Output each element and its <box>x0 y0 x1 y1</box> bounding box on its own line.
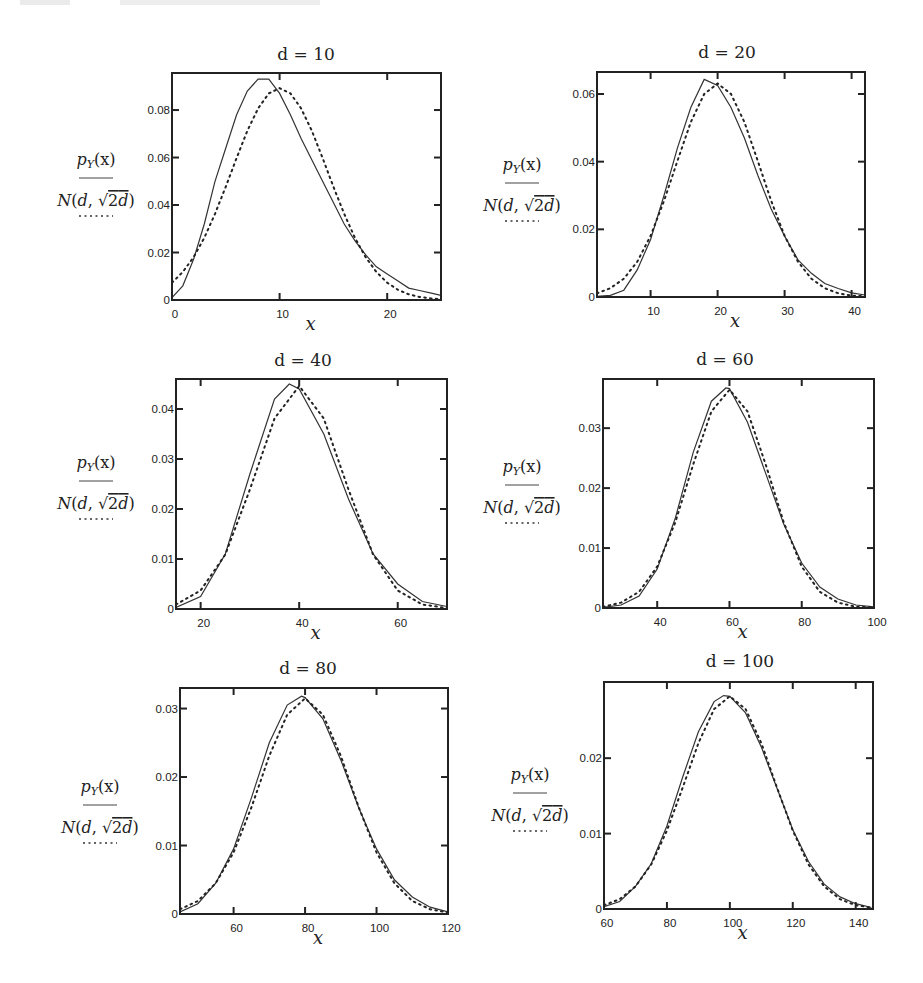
series-normal-dotted-line <box>597 84 865 297</box>
x-tick-label: 10 <box>276 308 289 320</box>
panel-title: d = 20 <box>698 42 756 62</box>
series-py-solid-line <box>597 79 865 296</box>
y-tick-label: 0.02 <box>156 771 178 783</box>
y-tick-label: 0.06 <box>148 152 170 164</box>
x-tick-label: 10 <box>647 305 660 317</box>
panel-title: d = 80 <box>279 658 337 678</box>
series-py-solid-line <box>172 79 441 297</box>
y-tick-label: 0.01 <box>579 542 601 554</box>
legend-dotted-label: N(d, √2d) <box>56 191 135 210</box>
panel-d10: d = 100102000.020.040.060.08xpY(x)N(d, √… <box>56 44 441 334</box>
y-tick-label: 0 <box>589 291 595 303</box>
panel-d60: d = 6040608010000.010.020.03xpY(x)N(d, √… <box>482 349 886 642</box>
y-tick-label: 0 <box>596 903 602 915</box>
legend-dotted-label: N(d, √2d) <box>56 494 135 513</box>
x-tick-label: 140 <box>849 917 868 929</box>
panel-title: d = 10 <box>277 44 335 64</box>
plot-frame <box>603 379 874 608</box>
y-tick-label: 0.08 <box>148 104 170 116</box>
panel-title: d = 100 <box>706 651 774 671</box>
series-normal-dotted-line <box>180 698 448 912</box>
y-tick-label: 0 <box>164 294 170 306</box>
x-tick-label: 30 <box>781 305 794 317</box>
series-normal-dotted-line <box>603 390 874 608</box>
legend-dotted-label: N(d, √2d) <box>490 806 569 825</box>
panel-title: d = 40 <box>274 350 332 370</box>
x-tick-label: 40 <box>296 617 309 629</box>
y-tick-label: 0 <box>172 908 178 920</box>
y-tick-label: 0.02 <box>148 247 170 259</box>
x-tick-label: 40 <box>654 616 667 628</box>
series-normal-dotted-line <box>176 386 447 608</box>
x-tick-label: 80 <box>798 616 811 628</box>
legend-dotted-label: N(d, √2d) <box>482 196 561 215</box>
x-tick-label: 40 <box>848 305 861 317</box>
x-tick-label: 20 <box>197 617 210 629</box>
y-tick-label: 0.02 <box>573 223 595 235</box>
x-tick-label: 60 <box>394 617 407 629</box>
x-tick-label: 80 <box>664 917 677 929</box>
y-tick-label: 0.02 <box>580 752 602 764</box>
x-tick-label: 60 <box>230 922 243 934</box>
y-tick-label: 0 <box>595 602 601 614</box>
x-axis-label: x <box>730 310 740 331</box>
legend-solid-label: pY(x) <box>76 453 115 474</box>
x-tick-label: 60 <box>601 917 614 929</box>
x-tick-label: 100 <box>370 922 389 934</box>
plot-frame <box>597 72 865 297</box>
x-axis-label: x <box>737 922 747 943</box>
y-tick-label: 0.04 <box>148 199 171 211</box>
panel-d80: d = 80608010012000.010.020.03xpY(x)N(d, … <box>60 658 460 948</box>
x-axis-label: x <box>313 927 323 948</box>
x-tick-label: 120 <box>786 917 805 929</box>
panel-d40: d = 4020406000.010.020.030.04xpY(x)N(d, … <box>56 350 447 643</box>
y-tick-label: 0.03 <box>156 703 178 715</box>
y-tick-label: 0.04 <box>152 403 175 415</box>
series-py-solid-line <box>604 696 871 908</box>
x-tick-label: 100 <box>867 616 886 628</box>
y-tick-label: 0.01 <box>156 840 178 852</box>
y-tick-label: 0.06 <box>573 88 595 100</box>
x-axis-label: x <box>305 313 315 334</box>
legend-solid-label: pY(x) <box>510 765 549 786</box>
y-tick-label: 0.04 <box>573 156 596 168</box>
panel-d20: d = 201020304000.020.040.06xpY(x)N(d, √2… <box>482 42 865 331</box>
plot-frame <box>176 379 447 609</box>
series-normal-dotted-line <box>604 696 871 907</box>
legend-solid-label: pY(x) <box>502 457 541 478</box>
legend-solid-label: pY(x) <box>76 150 115 171</box>
series-py-solid-line <box>603 388 874 607</box>
plot-frame <box>172 73 441 300</box>
legend-solid-label: pY(x) <box>80 777 119 798</box>
plot-frame <box>180 688 448 914</box>
panel-title: d = 60 <box>696 349 754 369</box>
y-tick-label: 0.03 <box>579 422 601 434</box>
y-tick-label: 0.02 <box>152 503 174 515</box>
legend-dotted-label: N(d, √2d) <box>60 818 139 837</box>
y-tick-label: 0.01 <box>580 828 602 840</box>
x-tick-label: 20 <box>384 308 397 320</box>
x-tick-label: 20 <box>714 305 727 317</box>
x-tick-label: 120 <box>441 922 460 934</box>
series-py-solid-line <box>176 384 447 608</box>
legend-dotted-label: N(d, √2d) <box>482 498 561 517</box>
x-axis-label: x <box>310 622 320 643</box>
y-tick-label: 0.02 <box>579 482 601 494</box>
y-tick-label: 0.01 <box>152 553 174 565</box>
panel-d100: d = 100608010012014000.010.02xpY(x)N(d, … <box>490 651 873 943</box>
legend-solid-label: pY(x) <box>502 155 541 176</box>
figure-grid: d = 100102000.020.040.060.08xpY(x)N(d, √… <box>0 0 923 983</box>
x-axis-label: x <box>737 621 747 642</box>
x-tick-label: 0 <box>172 308 178 320</box>
y-tick-label: 0 <box>168 603 174 615</box>
series-py-solid-line <box>180 696 448 912</box>
y-tick-label: 0.03 <box>152 453 174 465</box>
